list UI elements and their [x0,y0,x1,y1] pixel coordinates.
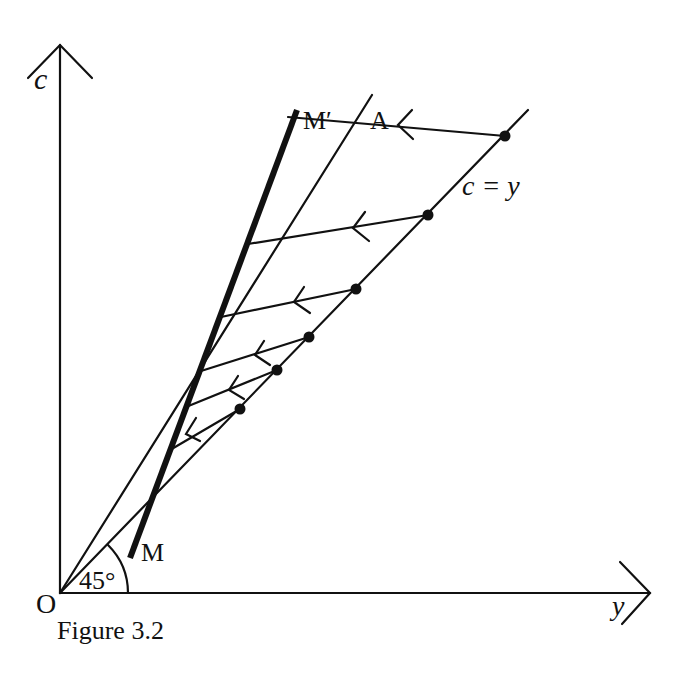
point-marker [235,404,246,415]
left-arrowhead-icon [255,341,270,365]
angle-label: 45° [79,566,115,596]
line-m-top-label: M′ [303,106,332,136]
point-marker [423,210,434,221]
line-m-bottom-label: M [141,538,164,568]
point-marker [351,284,362,295]
identity-line-label: c = y [462,170,520,202]
identity-line [60,110,528,593]
origin-label: O [36,588,56,620]
adjustment-paths [170,110,505,450]
point-marker [304,332,315,343]
left-arrowhead-icon [186,418,200,441]
vertical-axis-label: c [34,62,47,96]
line-m [130,110,297,558]
horizontal-axis-label: y [612,590,624,622]
figure-caption: Figure 3.2 [57,616,164,646]
point-marker [272,365,283,376]
line-a [60,95,372,593]
line-a-label: A [370,106,389,136]
point-marker [500,131,511,142]
left-arrowhead-icon [398,110,413,139]
